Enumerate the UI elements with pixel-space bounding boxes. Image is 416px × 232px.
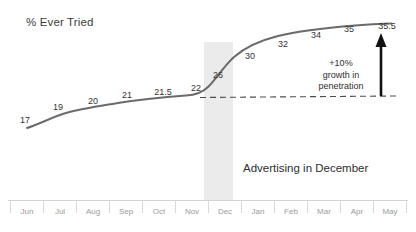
x-tick-label: Nov <box>185 207 199 216</box>
x-tick-label: Dec <box>218 207 232 216</box>
x-tick-label: Jun <box>21 207 34 216</box>
data-label: 22 <box>191 83 201 93</box>
growth-annotation: +10% growth in penetration <box>308 58 374 93</box>
x-tick-label: Apr <box>351 207 363 216</box>
x-tick-label: Jan <box>252 207 265 216</box>
data-label: 35.5 <box>378 21 396 31</box>
data-label: 32 <box>278 39 288 49</box>
data-label: 30 <box>245 51 255 61</box>
data-label: 19 <box>53 102 63 112</box>
data-label: 34 <box>311 30 321 40</box>
growth-annotation-line-2: growth in <box>308 70 374 82</box>
growth-annotation-line-1: +10% <box>308 58 374 70</box>
chart-container: % Ever Tried <box>0 0 416 232</box>
data-label: 17 <box>20 115 30 125</box>
x-tick-label: Feb <box>284 207 298 216</box>
growth-annotation-line-3: penetration <box>308 81 374 93</box>
plot-area <box>0 0 416 232</box>
x-tick-label: Aug <box>86 207 100 216</box>
data-label: 21 <box>122 90 132 100</box>
x-tick-label: May <box>382 207 397 216</box>
data-label: 26 <box>213 70 223 80</box>
x-axis-ticks <box>11 200 407 213</box>
baseline-dashed-line <box>200 96 398 98</box>
growth-arrow <box>376 33 387 96</box>
x-tick-label: Sep <box>119 207 133 216</box>
x-tick-label: Mar <box>317 207 331 216</box>
x-tick-label: Jul <box>55 207 65 216</box>
advertising-caption: Advertising in December <box>243 162 368 174</box>
data-label: 20 <box>88 96 98 106</box>
x-tick-label: Oct <box>153 207 165 216</box>
data-label: 35 <box>344 24 354 34</box>
data-label: 21.5 <box>154 87 172 97</box>
